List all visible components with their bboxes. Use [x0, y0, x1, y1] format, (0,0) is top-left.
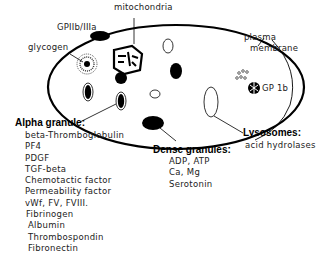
lysosomes-list: acid hydrolases [245, 140, 316, 151]
dense-body [170, 63, 182, 79]
label-gp1b: GP 1b [262, 83, 288, 93]
vesicle [163, 39, 173, 53]
lysosome [204, 87, 218, 117]
alpha-item: PF4 [25, 141, 124, 152]
alpha-item: Chemotactic factor [25, 175, 124, 186]
alpha-granule-leader [80, 104, 116, 122]
label-plasma-line1: plasma [244, 32, 276, 42]
dense-granules-title: Dense granules: [153, 145, 231, 155]
dense-item: Ca, Mg [169, 167, 213, 178]
alpha-item: Fibrinogen [25, 209, 124, 220]
alpha-item: Permeability factor [25, 186, 124, 197]
glycogen-cluster [77, 54, 97, 74]
dense-item: Serotonin [169, 179, 213, 190]
dense-granules-list: ADP, ATP Ca, Mg Serotonin [169, 156, 213, 190]
label-mitochondria: mitochondria [114, 2, 173, 12]
small-vesicles [236, 70, 249, 80]
mitochondria-organelle [114, 46, 142, 74]
dense-granule [142, 116, 164, 130]
dense-granule-leader [160, 128, 176, 141]
gp2b3a-receptor [90, 31, 110, 41]
alpha-item: PDGF [25, 153, 124, 164]
dense-body [115, 72, 127, 84]
alpha-item: Albumin [25, 220, 124, 231]
gp1b-receptor [248, 82, 260, 94]
alpha-granule-list: beta-Thromboglobulin PF4 PDGF TGF-beta C… [25, 130, 124, 254]
vesicle [150, 90, 160, 98]
alpha-item: vWf, FV, FVIII. [25, 198, 124, 209]
label-gp2b3a: GPIIb/IIIa [57, 22, 97, 32]
alpha-item: beta-Thromboglobulin [25, 130, 124, 141]
dense-item: ADP, ATP [169, 156, 213, 167]
lysosomes-title: Lysosomes: [243, 128, 301, 138]
label-glycogen: glycogen [28, 42, 68, 52]
alpha-granule-title: Alpha granule: [15, 118, 85, 128]
alpha-item: Thrombospondin [25, 232, 124, 243]
label-plasma-line2: membrane [250, 43, 298, 53]
lysosome-item: acid hydrolases [245, 140, 316, 151]
alpha-granule [83, 83, 93, 101]
alpha-granule [116, 92, 126, 110]
alpha-item: TGF-beta [25, 164, 124, 175]
lysosome-leader [214, 116, 243, 133]
alpha-item: Fibronectin [25, 243, 124, 254]
